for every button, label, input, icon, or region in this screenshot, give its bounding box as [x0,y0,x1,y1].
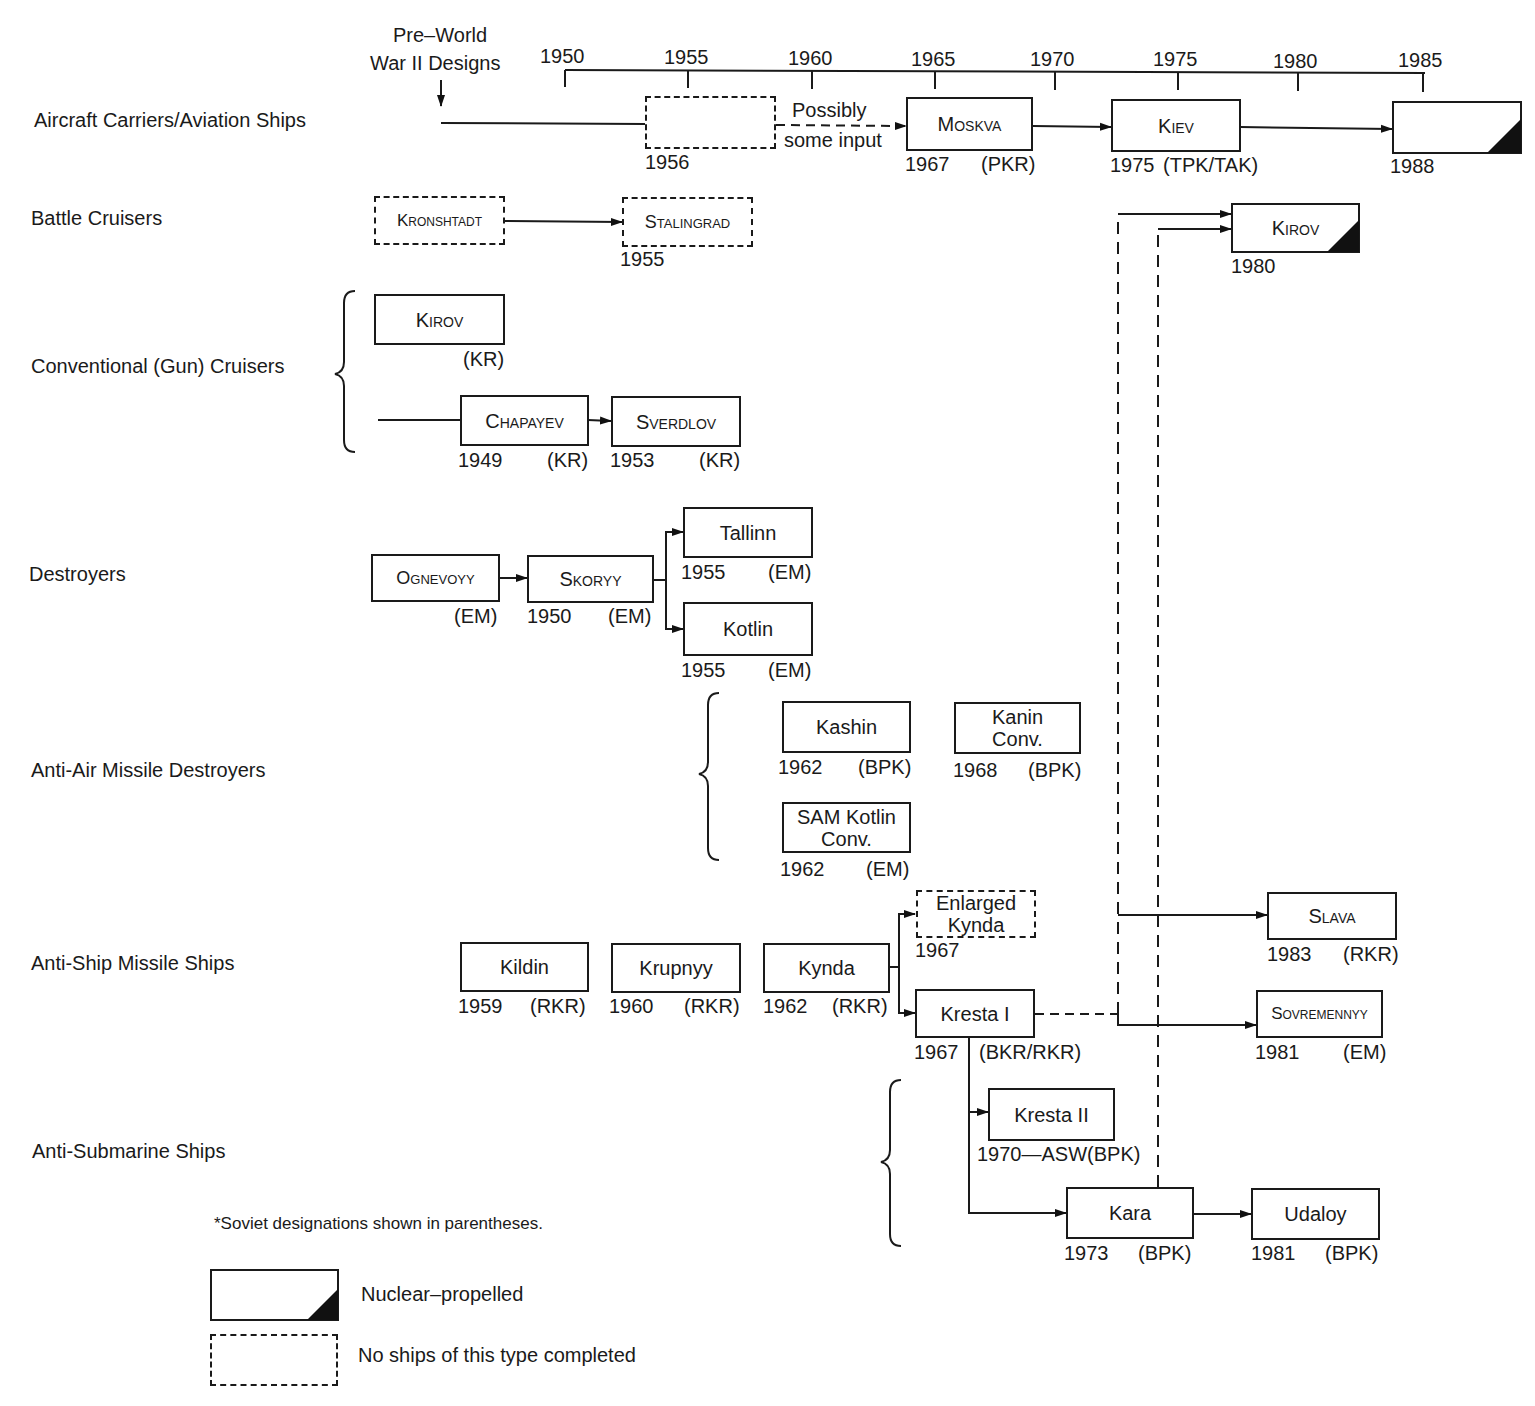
ship-year: 1949 [458,449,503,472]
possibly-note-line2: some input [784,129,882,152]
ship-year: 1962 [780,858,825,881]
ship-designation: (BPK) [1138,1242,1191,1265]
ship-name: Krupnyy [639,957,712,979]
footnote: *Soviet designations shown in parenthese… [214,1214,543,1234]
ship-caption: 1970—ASW(BPK) [977,1143,1140,1166]
ship-box-ognevoyy[interactable]: Ognevoyy [371,554,500,602]
legend-nuclear-label: Nuclear–propelled [361,1283,523,1306]
ship-box-kotlin[interactable]: Kotlin [683,602,813,656]
ship-name: Tallinn [720,522,777,544]
ship-year: 1980 [1231,255,1276,278]
ship-name-line2: Conv. [992,728,1043,750]
ship-designation: (EM) [768,659,811,682]
ship-designation: (BPK) [858,756,911,779]
ship-box-kiev[interactable]: Kiev [1111,99,1241,152]
possibly-note-line1: Possibly [792,99,866,122]
ship-name: Kresta II [1014,1104,1088,1126]
legend-not-completed-label: No ships of this type completed [358,1344,636,1367]
ship-name: Kirov [1272,217,1320,239]
ship-box-skoryy[interactable]: Skoryy [527,555,654,603]
ship-designation: (EM) [454,605,497,628]
category-anti-air-destroyers: Anti-Air Missile Destroyers [31,759,265,782]
ship-box-tallinn[interactable]: Tallinn [683,507,813,558]
ship-name: Kresta I [941,1003,1010,1025]
ship-designation: (EM) [768,561,811,584]
ship-name-line1: Kanin [992,706,1043,728]
ship-year: 1975 [1110,154,1155,177]
category-gun-cruisers: Conventional (Gun) Cruisers [31,355,284,378]
nuclear-marker-icon [307,1289,338,1320]
ship-box-kynda[interactable]: Kynda [763,943,890,993]
timeline-tick: 1970 [1030,48,1075,71]
ship-box-kirov-1980[interactable]: Kirov [1231,203,1360,253]
ship-box-kronshtadt[interactable]: Kronshtadt [374,196,505,245]
ship-box-kirov-kr[interactable]: Kirov [374,294,505,345]
ship-name: Kirov [416,309,464,331]
ship-box-sverdlov[interactable]: Sverdlov [611,396,741,447]
ship-box-stalingrad[interactable]: Stalingrad [622,197,753,247]
ship-year: 1967 [905,153,950,176]
ship-designation: (EM) [866,858,909,881]
ship-designation: (KR) [547,449,588,472]
ship-name: Slava [1308,905,1355,927]
pre-ww2-label-line1: Pre–World [393,24,487,47]
timeline-tick: 1950 [540,45,585,68]
ship-year: 1955 [681,561,726,584]
ship-year: 1983 [1267,943,1312,966]
ship-name: Sovremennyy [1271,1003,1368,1025]
ship-year: 1968 [953,759,998,782]
ship-box-sovremennyy[interactable]: Sovremennyy [1256,990,1383,1038]
ship-box-udaloy[interactable]: Udaloy [1251,1188,1380,1240]
ship-designation: (RKR) [530,995,586,1018]
ship-designation: (EM) [1343,1041,1386,1064]
ship-name: Kynda [798,957,855,979]
ship-designation: (RKR) [1343,943,1399,966]
ship-year: 1967 [914,1041,959,1064]
ship-year: 1981 [1255,1041,1300,1064]
ship-name: Kashin [816,716,877,738]
ship-box-kresta-1[interactable]: Kresta I [915,989,1035,1038]
ship-year: 1950 [527,605,572,628]
ship-name: Sverdlov [636,411,716,433]
ship-box-carrier-1956[interactable] [645,96,776,149]
ship-box-kashin[interactable]: Kashin [782,701,911,753]
ship-year: 1973 [1064,1242,1109,1265]
ship-designation: (KR) [463,348,504,371]
ship-box-moskva[interactable]: Moskva [906,97,1033,151]
ship-name: Stalingrad [645,211,730,233]
ship-box-kanin-conv[interactable]: Kanin Conv. [954,702,1081,754]
ship-box-kresta-2[interactable]: Kresta II [988,1088,1115,1141]
ship-box-slava[interactable]: Slava [1267,892,1397,940]
timeline-tick: 1965 [911,48,956,71]
ship-box-sam-kotlin-conv[interactable]: SAM Kotlin Conv. [782,802,911,853]
ship-year: 1988 [1390,155,1435,178]
ship-designation: (RKR) [684,995,740,1018]
ship-name: Kronshtadt [397,210,482,232]
ship-name: Udaloy [1284,1203,1346,1225]
ship-box-chapayev[interactable]: Chapayev [460,395,589,446]
ship-name: Kara [1109,1202,1151,1224]
ship-designation: (EM) [608,605,651,628]
timeline-tick: 1985 [1398,49,1443,72]
ship-box-enlarged-kynda[interactable]: Enlarged Kynda [916,890,1036,938]
ship-box-krupnyy[interactable]: Krupnyy [611,943,741,993]
ship-box-kara[interactable]: Kara [1066,1187,1194,1239]
ship-designation: (BKR/RKR) [979,1041,1081,1064]
nuclear-marker-icon [1487,119,1521,153]
ship-year: 1967 [915,939,960,962]
ship-designation: (BPK) [1325,1242,1378,1265]
ship-year: 1981 [1251,1242,1296,1265]
timeline-tick: 1955 [664,46,709,69]
legend-nuclear-swatch [210,1269,339,1321]
ship-year: 1962 [778,756,823,779]
nuclear-marker-icon [1327,220,1359,252]
ship-box-kildin[interactable]: Kildin [460,942,589,992]
ship-designation: (BPK) [1028,759,1081,782]
ship-name: Kildin [500,956,549,978]
category-aircraft-carriers: Aircraft Carriers/Aviation Ships [34,109,306,132]
category-battle-cruisers: Battle Cruisers [31,207,162,230]
ship-name-line2: Conv. [821,828,872,850]
pre-ww2-label-line2: War II Designs [370,52,500,75]
ship-name-line1: Enlarged [936,892,1016,914]
ship-box-carrier-1988[interactable] [1392,101,1522,154]
